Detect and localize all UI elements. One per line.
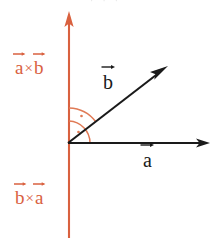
angle-arc-outer	[69, 108, 96, 122]
vector-arrow-accent-icon	[33, 180, 46, 186]
label-vector-a: a	[143, 150, 152, 170]
vector-arrow-accent-icon	[140, 141, 154, 147]
vector-arrow-accent-icon	[13, 50, 26, 56]
vector-arrow-accent-icon	[13, 180, 26, 186]
vector-arrow-accent-icon	[32, 50, 45, 56]
vertical-axis-group	[64, 11, 73, 238]
figure-canvas: · · · a	[0, 0, 211, 238]
glyph-vector-a-2: a	[35, 188, 43, 207]
vector-b-group	[68, 66, 168, 143]
vector-b-line	[68, 72, 160, 143]
label-vector-b: b	[103, 72, 113, 92]
label-b-cross-a: b × a	[15, 188, 43, 207]
vector-arrow-accent-icon	[101, 63, 115, 69]
cross-operator-2: ×	[25, 190, 35, 206]
cross-operator-1: ×	[23, 60, 33, 76]
glyph-vector-a-1: a	[15, 58, 23, 77]
glyph-vector-b-1: b	[34, 58, 44, 77]
label-a-cross-b: a × b	[15, 58, 43, 77]
glyph-vector-b-main: b	[103, 72, 113, 92]
glyph-vector-b-2: b	[15, 188, 25, 207]
right-angle-dot-outer	[80, 115, 83, 118]
glyph-vector-a-main: a	[143, 150, 152, 170]
